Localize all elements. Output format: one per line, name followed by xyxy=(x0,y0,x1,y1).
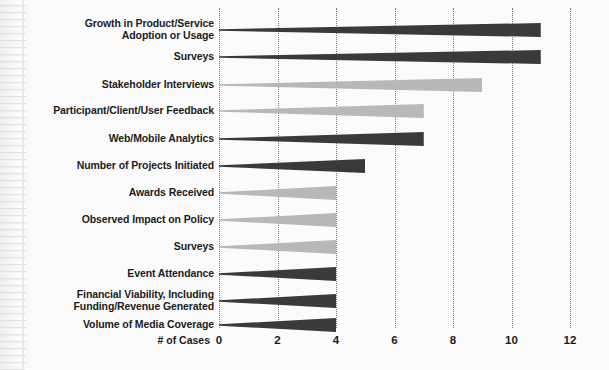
chart-container: Growth in Product/ServiceAdoption or Usa… xyxy=(0,0,609,370)
category-label: Participant/Client/User Feedback xyxy=(6,104,214,116)
x-axis-tick-labels: 024681012 xyxy=(219,334,570,350)
bar-wedge-shape xyxy=(219,45,541,69)
x-tick-8: 8 xyxy=(450,334,456,346)
bar-wedge-shape xyxy=(219,289,336,313)
plot-area xyxy=(219,8,570,328)
category-label-column: Growth in Product/ServiceAdoption or Usa… xyxy=(4,0,214,370)
bar[interactable] xyxy=(219,45,541,69)
bar-wedge-shape xyxy=(219,127,424,151)
bar[interactable] xyxy=(219,235,336,259)
category-label: Surveys xyxy=(6,50,214,62)
x-tick-2: 2 xyxy=(274,334,280,346)
category-label: Observed Impact on Policy xyxy=(6,213,214,225)
bar[interactable] xyxy=(219,154,365,178)
bar-wedge-shape xyxy=(219,208,336,232)
x-tick-12: 12 xyxy=(564,334,577,346)
category-label: Web/Mobile Analytics xyxy=(6,132,214,144)
x-tick-6: 6 xyxy=(391,334,397,346)
category-label: Surveys xyxy=(6,240,214,252)
x-tick-10: 10 xyxy=(505,334,518,346)
x-tick-0: 0 xyxy=(216,334,222,346)
bar[interactable] xyxy=(219,18,541,42)
bar[interactable] xyxy=(219,289,336,313)
bar-wedge-shape xyxy=(219,18,541,42)
bar-wedge-shape xyxy=(219,262,336,286)
x-tick-4: 4 xyxy=(333,334,339,346)
bar[interactable] xyxy=(219,181,336,205)
category-label: Event Attendance xyxy=(6,267,214,279)
category-label: Number of Projects Initiated xyxy=(6,159,214,171)
category-label: Financial Viability, IncludingFunding/Re… xyxy=(6,288,214,312)
bar[interactable] xyxy=(219,208,336,232)
category-label: Awards Received xyxy=(6,186,214,198)
bar-wedge-shape xyxy=(219,99,424,123)
bar[interactable] xyxy=(219,73,482,97)
bar[interactable] xyxy=(219,99,424,123)
category-label: Growth in Product/ServiceAdoption or Usa… xyxy=(6,17,214,41)
category-label: Stakeholder Interviews xyxy=(6,78,214,90)
bar[interactable] xyxy=(219,262,336,286)
bar-wedge-shape xyxy=(219,154,365,178)
bar[interactable] xyxy=(219,127,424,151)
bar-wedge-shape xyxy=(219,73,482,97)
gridline-12 xyxy=(570,8,571,328)
bar-wedge-shape xyxy=(219,235,336,259)
category-label: Volume of Media Coverage xyxy=(6,318,214,330)
bar-wedge-shape xyxy=(219,181,336,205)
x-axis-title: # of Cases xyxy=(118,334,210,346)
